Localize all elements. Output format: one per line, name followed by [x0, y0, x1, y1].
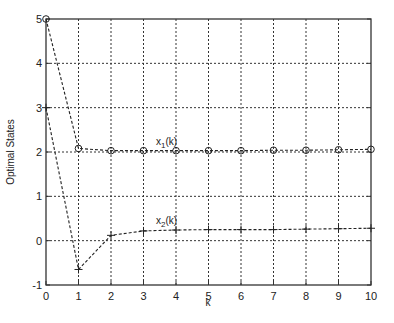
x-tick-label: 4	[173, 290, 179, 302]
y-axis-label: Optimal States	[5, 119, 16, 185]
y-tick-label: 3	[36, 102, 42, 114]
x-tick-label: 6	[238, 290, 244, 302]
y-tick-label: 0	[36, 235, 42, 247]
grid-lines	[46, 19, 371, 285]
x-tick-label: 0	[43, 290, 49, 302]
x-tick-label: 10	[365, 290, 377, 302]
series-annotation: x2(k)	[156, 215, 177, 229]
x-tick-label: 7	[270, 290, 276, 302]
x-tick-label: 9	[335, 290, 341, 302]
y-tick-label: -1	[32, 279, 42, 291]
y-tick-label: 1	[36, 190, 42, 202]
y-tick-label: 5	[36, 13, 42, 25]
x-tick-label: 2	[108, 290, 114, 302]
y-tick-label: 2	[36, 146, 42, 158]
x-tick-label: 3	[140, 290, 146, 302]
optimal-states-chart: 012345678910 -1012345 x1(k)x2(k) k Optim…	[0, 0, 394, 323]
x-tick-label: 8	[303, 290, 309, 302]
y-tick-label: 4	[36, 57, 42, 69]
annotations: x1(k)x2(k)	[156, 136, 177, 230]
x-tick-label: 1	[75, 290, 81, 302]
